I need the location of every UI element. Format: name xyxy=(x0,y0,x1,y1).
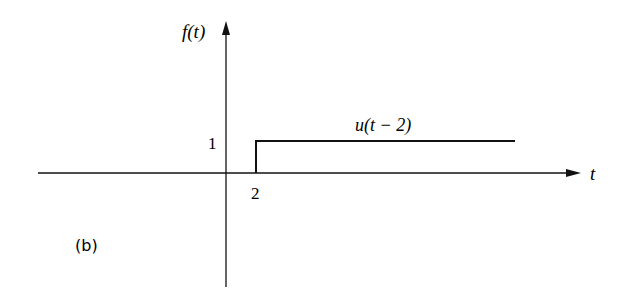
y-axis-label: f(t) xyxy=(182,21,205,43)
x-axis-arrow-icon xyxy=(566,169,581,177)
y-tick-label: 1 xyxy=(208,134,217,153)
step-function-diagram: f(t) t 1 2 u(t − 2) (b) xyxy=(0,0,631,308)
x-tick-label: 2 xyxy=(251,184,260,203)
curve-label: u(t − 2) xyxy=(355,115,411,136)
x-axis-label: t xyxy=(590,163,596,184)
step-curve xyxy=(256,141,515,173)
panel-label: (b) xyxy=(75,236,98,255)
y-axis-arrow-icon xyxy=(222,21,230,35)
